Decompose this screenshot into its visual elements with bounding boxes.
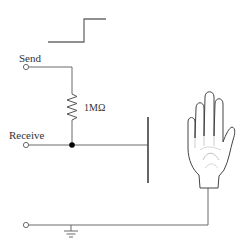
ground-icon <box>64 225 78 237</box>
step-waveform <box>48 19 106 42</box>
circuit-diagram <box>0 0 247 246</box>
ground-terminal <box>23 222 28 227</box>
receive-label: Receive <box>9 130 44 141</box>
receive-terminal <box>23 142 28 147</box>
send-terminal <box>23 64 28 69</box>
send-label: Send <box>19 53 41 64</box>
ground-wire <box>29 188 208 225</box>
hand-icon <box>188 92 235 188</box>
resistor-label: 1MΩ <box>84 103 105 113</box>
resistor-symbol <box>67 94 77 120</box>
send-wire <box>29 67 72 94</box>
junction-node <box>69 142 75 148</box>
